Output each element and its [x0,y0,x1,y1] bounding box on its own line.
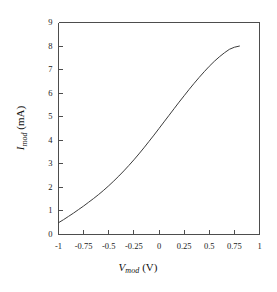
figure-container: 0123456789 -1-0.75-0.5-0.2500.250.50.751… [0,0,276,292]
y-tick-label: 3 [33,159,53,168]
x-tick-label: 1 [240,242,277,251]
y-tick-label: 8 [33,42,53,51]
x-axis-unit: (V) [142,261,157,273]
y-tick-label: 4 [33,136,53,145]
x-axis-title: Vmod (V) [0,262,276,275]
x-axis-subscript: mod [125,266,139,275]
x-tick-marks [59,230,260,235]
y-tick-marks [59,23,64,235]
data-series-line [59,46,240,223]
y-axis-title: Imod (mA) [15,106,28,150]
y-tick-label: 2 [33,183,53,192]
y-axis-title-wrapper: Imod (mA) [11,0,33,256]
y-axis-symbol: I [14,146,26,150]
y-tick-label: 1 [33,206,53,215]
y-tick-label: 6 [33,89,53,98]
y-axis-subscript: mod [20,132,29,146]
y-tick-label: 9 [33,18,53,27]
y-tick-label: 7 [33,65,53,74]
y-tick-label: 5 [33,112,53,121]
y-axis-unit: (mA) [14,106,26,130]
y-tick-label: 0 [33,230,53,239]
